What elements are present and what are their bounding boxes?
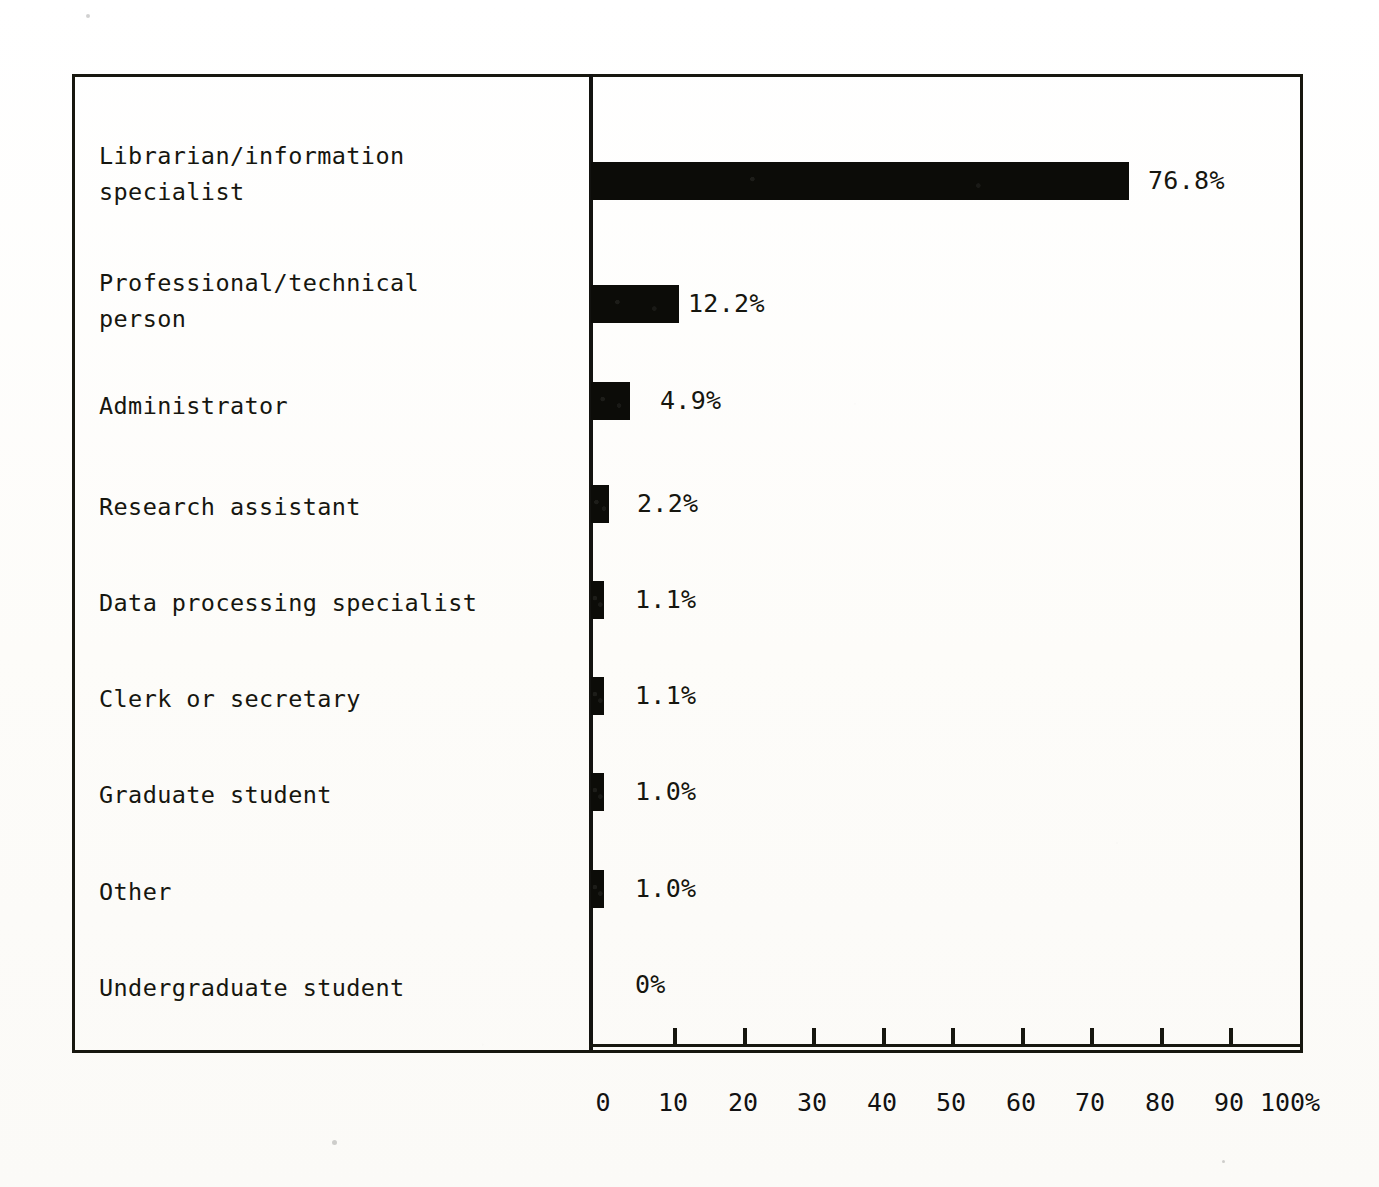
bar-value-label: 1.1% — [635, 581, 696, 619]
bar-value-label: 12.2% — [688, 285, 765, 323]
bar — [591, 677, 604, 715]
bar — [591, 870, 604, 908]
axis-tick-10 — [673, 1028, 677, 1044]
category-label: Librarian/information specialist — [99, 138, 405, 210]
value-axis-line — [589, 1044, 1303, 1047]
axis-tick-80 — [1160, 1028, 1164, 1044]
axis-tick-label-90: 90 — [1214, 1088, 1244, 1117]
category-label: Clerk or secretary — [99, 681, 361, 717]
axis-tick-70 — [1090, 1028, 1094, 1044]
category-label: Professional/technical person — [99, 265, 419, 337]
bar — [591, 285, 679, 323]
bar-value-label: 1.0% — [635, 870, 696, 908]
axis-tick-label-70: 70 — [1075, 1088, 1105, 1117]
bar — [591, 162, 1129, 200]
axis-tick-label-40: 40 — [867, 1088, 897, 1117]
bar-value-label: 76.8% — [1148, 162, 1225, 200]
axis-tick-label-10: 10 — [658, 1088, 688, 1117]
bar — [591, 485, 609, 523]
axis-tick-20 — [743, 1028, 747, 1044]
chart-page: 0102030405060708090100% Librarian/inform… — [0, 0, 1379, 1187]
axis-tick-50 — [951, 1028, 955, 1044]
axis-tick-90 — [1229, 1028, 1233, 1044]
scan-speck — [86, 14, 90, 18]
axis-tick-60 — [1021, 1028, 1025, 1044]
category-label: Graduate student — [99, 777, 332, 813]
bar — [591, 382, 630, 420]
category-label: Administrator — [99, 388, 288, 424]
axis-tick-label-60: 60 — [1006, 1088, 1036, 1117]
scan-speck — [1222, 1160, 1225, 1163]
axis-tick-30 — [812, 1028, 816, 1044]
axis-tick-label-100: 100% — [1260, 1088, 1320, 1117]
bar-value-label: 2.2% — [637, 485, 698, 523]
axis-tick-label-0: 0 — [595, 1088, 610, 1117]
bar — [591, 581, 604, 619]
category-label: Other — [99, 874, 172, 910]
category-label: Research assistant — [99, 489, 361, 525]
scan-speck — [332, 1140, 337, 1145]
category-label: Data processing specialist — [99, 585, 477, 621]
axis-tick-label-80: 80 — [1145, 1088, 1175, 1117]
bar-value-label: 1.1% — [635, 677, 696, 715]
bar-value-label: 4.9% — [660, 382, 721, 420]
axis-tick-40 — [882, 1028, 886, 1044]
bar-value-label: 1.0% — [635, 773, 696, 811]
axis-tick-label-30: 30 — [797, 1088, 827, 1117]
bar-value-label: 0% — [635, 966, 666, 1004]
bar — [591, 773, 604, 811]
axis-tick-label-20: 20 — [728, 1088, 758, 1117]
category-label: Undergraduate student — [99, 970, 405, 1006]
axis-tick-label-50: 50 — [936, 1088, 966, 1117]
